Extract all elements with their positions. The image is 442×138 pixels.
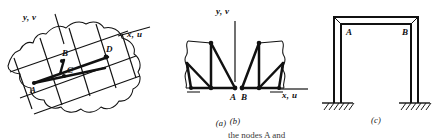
node-b-point: [60, 59, 64, 63]
x-axis-label-a: x, u: [127, 29, 142, 39]
node-dot: [257, 86, 262, 91]
node-dot: [209, 86, 214, 91]
node-dot: [257, 41, 262, 46]
x-axis-label-b: x, u: [282, 90, 297, 100]
support-left-hatching: [324, 103, 354, 110]
node-label-b-c: B: [402, 27, 408, 37]
node-c-point: [62, 74, 66, 78]
y-axis-label-b: y, v: [216, 6, 229, 16]
node-markers-right-b: [240, 41, 282, 91]
support-right-hatching: [401, 103, 431, 110]
caption-c: (c): [310, 115, 442, 125]
truncated-body-text: the nodes A and: [0, 131, 442, 138]
caption-b: (b): [160, 116, 310, 126]
support-left: [322, 103, 354, 110]
mesh-left-b: [185, 41, 235, 92]
node-a-point: [233, 86, 238, 91]
y-axis-a: [55, 14, 64, 44]
node-label-a-c: A: [346, 27, 352, 37]
node-label-a: A: [30, 85, 36, 95]
node-d-point: [104, 55, 109, 60]
truncated-body-text-line: the nodes A and: [0, 131, 442, 138]
mesh-grid-a: [14, 24, 136, 109]
node-dot: [277, 86, 281, 90]
frame-member-webs: [334, 17, 418, 24]
node-label-c: C: [67, 65, 73, 75]
mesh-right-b: [242, 41, 285, 92]
node-label-a-b: A: [230, 92, 236, 102]
node-label-d: D: [106, 44, 113, 54]
figure-container: y, v x, u A B C D: [0, 0, 442, 138]
node-dot: [209, 41, 214, 46]
node-label-b: B: [62, 48, 68, 58]
y-axis-label-a: y, v: [23, 12, 36, 22]
node-dot: [189, 86, 193, 90]
node-label-b-b: B: [241, 92, 247, 102]
support-right: [399, 103, 431, 110]
node-b-point: [240, 86, 245, 91]
